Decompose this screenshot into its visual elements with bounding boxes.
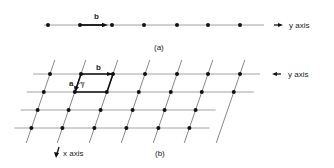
panel-a-caption: (a): [154, 43, 164, 52]
lattice-point: [238, 23, 242, 27]
panel-a-y-axis-label: y axis: [289, 21, 309, 30]
panel-a-vector-b-label: b: [94, 12, 99, 21]
lattice-point: [238, 72, 242, 76]
panel-a-y-axis-arrowhead-icon: [278, 23, 283, 27]
lattice-point: [99, 108, 103, 112]
lattice-point: [142, 23, 146, 27]
lattice-point: [29, 126, 33, 130]
lattice-point: [175, 72, 179, 76]
lattice-point: [206, 72, 210, 76]
lattice-point: [36, 108, 40, 112]
lattice-point: [200, 90, 204, 94]
lattice-point: [143, 72, 147, 76]
lattice-point: [163, 108, 167, 112]
lattice-point: [187, 126, 191, 130]
lattice-point: [156, 126, 160, 130]
lattice-point: [175, 23, 179, 27]
lattice-point: [131, 108, 135, 112]
lattice-point: [60, 126, 64, 130]
panel-b-y-axis-arrowhead-icon: [272, 72, 277, 76]
lattice-point: [67, 108, 71, 112]
panel-b-x-axis-arrowhead-icon: [54, 152, 59, 158]
lattice-point: [124, 126, 128, 130]
panel-b-angle-gamma-label: γ: [81, 80, 85, 88]
lattice-diagram: b y axis (a) b a γ y axis x axis (b): [0, 0, 334, 168]
lattice-point: [48, 72, 52, 76]
lattice-point: [232, 90, 236, 94]
panel-b-y-axis-label: y axis: [288, 70, 308, 79]
panel-b-two-dimensional-lattice: b a γ y axis x axis (b): [14, 60, 308, 158]
lattice-point: [137, 90, 141, 94]
panel-a-vector-b-arrowhead-icon: [102, 23, 108, 27]
lattice-point: [92, 126, 96, 130]
panel-b-x-axis-label: x axis: [63, 149, 83, 158]
panel-a-one-dimensional-lattice: b y axis (a): [44, 12, 309, 52]
panel-b-row-lines: [14, 74, 260, 128]
lattice-point: [194, 108, 198, 112]
lattice-point: [206, 23, 210, 27]
lattice-point: [169, 90, 173, 94]
panel-b-caption: (b): [155, 149, 165, 158]
lattice-point: [46, 23, 50, 27]
panel-b-vector-a-label: a: [69, 79, 74, 88]
panel-b-vector-b-label: b: [96, 63, 101, 72]
lattice-point: [110, 23, 114, 27]
panel-b-slanted-lines: [26, 60, 245, 143]
lattice-point: [42, 90, 46, 94]
